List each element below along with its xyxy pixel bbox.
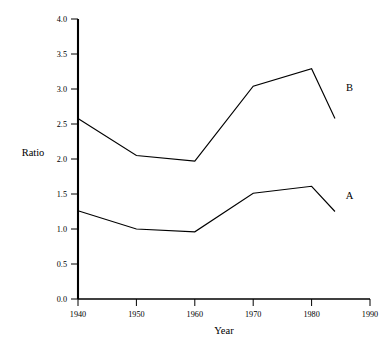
series-line-B	[78, 69, 335, 161]
chart-figure: 0.00.51.01.52.02.53.03.54.0 194019501960…	[0, 0, 385, 345]
x-axis-title: Year	[214, 325, 234, 336]
x-axis-ticks	[78, 299, 370, 306]
x-axis-tick-labels: 194019501960197019801990	[70, 310, 378, 319]
y-tick-label-4.0: 4.0	[57, 15, 67, 24]
y-tick-label-1.5: 1.5	[57, 190, 67, 199]
x-tick-label-1960: 1960	[187, 310, 203, 319]
x-tick-label-1970: 1970	[245, 310, 261, 319]
y-tick-label-0.5: 0.5	[57, 260, 67, 269]
y-tick-label-3.5: 3.5	[57, 50, 67, 59]
x-tick-label-1980: 1980	[303, 310, 319, 319]
y-axis-tick-labels: 0.00.51.01.52.02.53.03.54.0	[57, 15, 67, 304]
y-tick-label-2.0: 2.0	[57, 155, 67, 164]
y-tick-label-1.0: 1.0	[57, 225, 67, 234]
series-label-group: BA	[346, 82, 354, 201]
y-tick-label-3.0: 3.0	[57, 85, 67, 94]
x-tick-label-1940: 1940	[70, 310, 86, 319]
x-tick-label-1990: 1990	[362, 310, 378, 319]
series-line-A	[78, 186, 335, 232]
y-tick-label-2.5: 2.5	[57, 120, 67, 129]
y-axis-title: Ratio	[22, 147, 45, 158]
line-chart: 0.00.51.01.52.02.53.03.54.0 194019501960…	[0, 0, 385, 345]
data-series-group	[78, 69, 335, 232]
series-label-B: B	[346, 82, 353, 93]
y-tick-label-0.0: 0.0	[57, 295, 67, 304]
series-label-A: A	[346, 190, 354, 201]
x-tick-label-1950: 1950	[128, 310, 144, 319]
